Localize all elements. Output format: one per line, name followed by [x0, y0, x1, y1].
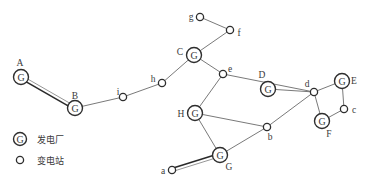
substation-icon — [263, 123, 270, 130]
substation-icon — [168, 166, 175, 173]
plant-glyph: G — [264, 84, 271, 95]
node-label: H — [178, 109, 185, 119]
line-f-g — [200, 17, 230, 30]
power-plant-G: GG — [213, 148, 233, 173]
node-label: b — [268, 132, 273, 142]
substation-icon — [119, 93, 126, 100]
node-label: c — [352, 105, 356, 115]
substation-icon — [219, 70, 226, 77]
network-nodes: GAGBGCGDGEGFGGGHabcdefghi — [14, 12, 358, 176]
substation-icon — [310, 88, 317, 95]
node-label: f — [237, 28, 241, 38]
power-plant-H: GH — [178, 106, 203, 121]
substation-icon — [340, 105, 347, 112]
plant-glyph: G — [191, 108, 198, 119]
line-H-b — [195, 113, 267, 127]
power-plant-B: GB — [68, 91, 83, 116]
node-label: E — [351, 76, 357, 86]
plant-glyph: G — [216, 150, 223, 161]
plant-glyph: G — [338, 76, 345, 87]
node-label: e — [228, 64, 232, 74]
transmission-lines — [20, 17, 344, 172]
legend-item-power-plant: G 发电厂 — [14, 133, 65, 146]
power-plant-E: GE — [335, 74, 358, 89]
substation-icon — [158, 79, 165, 86]
substation-a: a — [161, 166, 176, 176]
legend-label-power-plant: 发电厂 — [37, 134, 64, 145]
line-i-h — [123, 83, 162, 97]
node-label: B — [72, 91, 78, 101]
power-network-diagram: GAGBGCGDGEGFGGGHabcdefghi G 发电厂 变电站 — [0, 0, 367, 187]
node-label: G — [226, 162, 233, 172]
substation-f: f — [226, 26, 241, 38]
plant-glyph: G — [190, 50, 197, 61]
substation-icon — [16, 156, 23, 163]
substation-d: d — [305, 79, 318, 96]
node-label: h — [151, 74, 156, 84]
substation-c: c — [340, 105, 356, 115]
node-label: A — [17, 58, 24, 68]
power-plant-F: GF — [315, 114, 332, 140]
line-A-B — [20, 78, 74, 109]
plant-glyph: G — [17, 72, 24, 83]
legend-label-substation: 变电站 — [37, 155, 64, 166]
substation-icon — [226, 26, 233, 33]
power-plant-C: GC — [177, 47, 202, 63]
substation-icon — [196, 13, 203, 20]
plant-glyph: G — [318, 116, 325, 127]
node-label: F — [326, 129, 331, 139]
line-A-B-second — [22, 76, 76, 107]
substation-b: b — [263, 123, 272, 142]
plant-glyph: G — [71, 103, 78, 114]
legend-item-substation: 变电站 — [16, 155, 64, 166]
legend: G 发电厂 变电站 — [14, 133, 65, 167]
node-label: g — [189, 12, 194, 22]
line-b-d — [267, 92, 314, 127]
substation-h: h — [151, 74, 166, 87]
node-label: D — [259, 70, 266, 80]
power-plant-A: GA — [14, 58, 29, 85]
node-label: i — [117, 87, 120, 97]
node-label: d — [305, 79, 310, 89]
node-label: C — [177, 47, 183, 57]
substation-g: g — [189, 12, 204, 22]
power-plant-D: GD — [259, 70, 276, 97]
plant-glyph: G — [16, 134, 23, 145]
node-label: a — [161, 166, 166, 176]
line-G-b — [220, 127, 267, 155]
